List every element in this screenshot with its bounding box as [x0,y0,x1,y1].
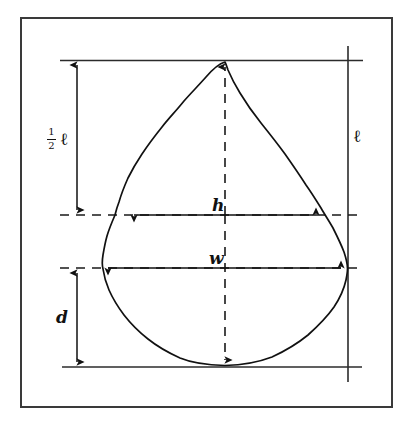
width-at-half-length-label: h [212,197,224,214]
depth-label: d [56,309,68,326]
fraction-numerator: 1 [47,127,55,138]
total-length-label: ℓ [353,128,361,145]
fraction-denominator: 2 [47,141,55,152]
diagram-canvas [0,0,415,429]
half-length-fraction: 1 2 [47,127,56,151]
half-length-label: 1 2 ℓ [47,127,68,151]
half-length-ell-symbol: ℓ [60,131,68,148]
figure-root: 1 2 ℓ ℓ h w d [0,0,415,429]
max-width-label: w [209,250,224,267]
